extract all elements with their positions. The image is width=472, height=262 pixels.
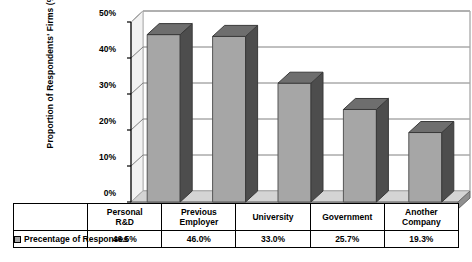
bar-group-2	[278, 72, 323, 202]
bar-front-4	[409, 133, 442, 202]
table-value-3: 25.7%	[310, 231, 384, 248]
bar-front-3	[343, 109, 376, 202]
table-value-2: 33.0%	[236, 231, 310, 248]
table-value-4: 19.3%	[384, 231, 458, 248]
cat-line-2a: University	[252, 212, 293, 222]
cat-line-0b: R&D	[116, 217, 134, 227]
table-row-categories: Personal R&D Previous Employer Universit…	[14, 204, 459, 231]
table-row-values: Precentage of Responses 46.5% 46.0% 33.0…	[14, 231, 459, 248]
table-header-0: Personal R&D	[88, 204, 162, 231]
cat-line-0a: Personal	[107, 207, 143, 217]
data-table: Personal R&D Previous Employer Universit…	[13, 203, 459, 248]
bar-group-4	[409, 122, 454, 202]
bar-side-0	[180, 24, 192, 202]
table-header-4: Another Company	[384, 204, 458, 231]
cat-line-3a: Government	[322, 212, 372, 222]
bar-side-4	[442, 122, 454, 202]
bar-side-3	[376, 98, 388, 202]
bar-front-2	[278, 83, 311, 202]
table-header-3: Government	[310, 204, 384, 231]
table-header-1: Previous Employer	[162, 204, 236, 231]
bar-chart-figure: Proportion of Respondents' Firms (%) 50%…	[0, 0, 472, 262]
cat-line-4b: Company	[402, 217, 441, 227]
table-corner-blank	[14, 204, 88, 231]
table-value-1: 46.0%	[162, 231, 236, 248]
legend-cell: Precentage of Responses	[14, 231, 88, 248]
cat-line-4a: Another	[405, 207, 438, 217]
bar-front-1	[213, 36, 246, 202]
left-side-wall	[131, 11, 143, 202]
cat-line-1a: Previous	[181, 207, 217, 217]
bar-side-2	[311, 72, 323, 202]
bar-group-3	[343, 98, 388, 202]
bar-side-1	[246, 25, 258, 202]
bar-front-0	[147, 35, 180, 202]
bar-group-1	[213, 25, 258, 202]
bar-group-0	[147, 24, 192, 202]
series-color-swatch-icon	[14, 236, 21, 243]
cat-line-1b: Employer	[180, 217, 219, 227]
table-header-2: University	[236, 204, 310, 231]
